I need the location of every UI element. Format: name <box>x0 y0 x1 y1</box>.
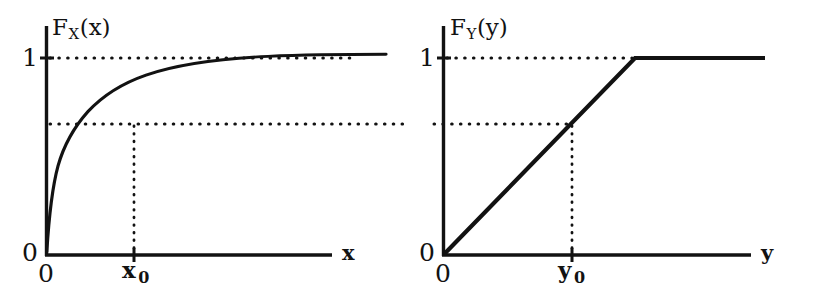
cdf-curve-y <box>444 58 765 255</box>
y-axis-function-subscript: X <box>68 25 80 43</box>
x-tick-label-x0: x0 <box>122 258 149 286</box>
figure-root: FX(x) 1 0 0 x0 x <box>0 0 813 296</box>
y-tick-label-zero: 0 <box>419 240 435 265</box>
origin-label: 0 <box>435 261 451 286</box>
x-tick-label-y0: y0 <box>558 258 585 286</box>
cdf-curve-x <box>47 54 386 251</box>
y-tick-label-zero: 0 <box>22 240 38 265</box>
x-tick-label-x0-base: x <box>122 256 136 283</box>
y-axis-function-argument: (y) <box>477 14 508 40</box>
x-axis-variable-label: x <box>342 242 355 263</box>
cdf-plot-y-panel: FY(y) 1 0 0 y0 y <box>406 0 813 296</box>
cdf-plot-y-svg <box>406 0 813 296</box>
y-axis-function-base: F <box>52 14 68 40</box>
x-tick-label-y0-base: y <box>558 256 571 283</box>
x-tick-label-x0-subscript: 0 <box>136 268 150 287</box>
y-axis-function-argument: (x) <box>80 14 111 40</box>
x-axis-variable-label: y <box>761 242 773 263</box>
y-tick-label-one: 1 <box>22 45 38 70</box>
cdf-plot-x-panel: FX(x) 1 0 0 x0 x <box>0 0 406 296</box>
y-axis-function-label: FX(x) <box>52 16 111 42</box>
y-axis-function-base: F <box>450 14 466 40</box>
y-axis-function-subscript: Y <box>466 25 477 43</box>
x-tick-label-y0-subscript: 0 <box>571 268 585 287</box>
y-tick-label-one: 1 <box>419 45 435 70</box>
origin-label: 0 <box>38 261 54 286</box>
y-axis-function-label: FY(y) <box>450 16 508 42</box>
